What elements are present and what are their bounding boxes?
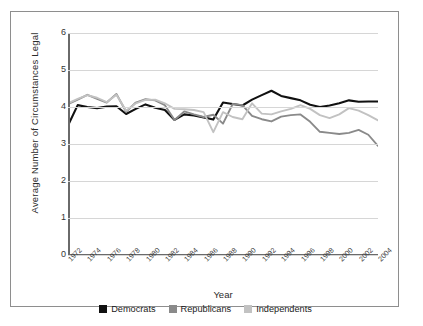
legend-swatch-icon	[169, 305, 177, 313]
legend-label: Independents	[256, 304, 312, 314]
gridline	[68, 33, 378, 34]
gridline	[68, 107, 378, 108]
legend-item-republicans[interactable]: Republicans	[169, 304, 232, 314]
y-tick-label: 2	[40, 175, 66, 185]
legend-swatch-icon	[244, 305, 252, 313]
y-tick-label: 6	[40, 27, 66, 37]
gridline	[68, 218, 378, 219]
plot-area: 0123456	[68, 33, 378, 255]
y-tick-label: 0	[40, 249, 66, 259]
gridline	[68, 144, 378, 145]
series-line-independents	[68, 95, 378, 132]
x-axis-ticks: 1972197419761978198019821984198619881990…	[68, 257, 378, 291]
y-tick-label: 3	[40, 138, 66, 148]
gridline	[68, 181, 378, 182]
y-tick-label: 5	[40, 64, 66, 74]
figure-caption	[11, 319, 411, 326]
gridline	[68, 70, 378, 71]
figure-frame: Average Number of Circumstances Legal 01…	[10, 11, 399, 307]
x-tick-label: 2004	[376, 246, 394, 264]
chart-legend: DemocratsRepublicansIndependents	[11, 304, 400, 314]
legend-swatch-icon	[99, 305, 107, 313]
legend-label: Democrats	[111, 304, 155, 314]
legend-item-democrats[interactable]: Democrats	[99, 304, 155, 314]
y-tick-label: 4	[40, 101, 66, 111]
y-axis-label: Average Number of Circumstances Legal	[29, 12, 43, 234]
legend-label: Republicans	[181, 304, 232, 314]
legend-item-independents[interactable]: Independents	[244, 304, 312, 314]
y-tick-label: 1	[40, 212, 66, 222]
x-axis-label: Year	[68, 289, 378, 300]
